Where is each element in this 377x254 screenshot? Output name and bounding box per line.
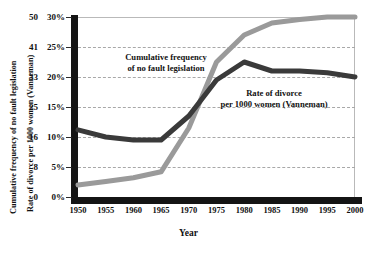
x-axis-label: 2000: [337, 206, 373, 215]
x-axis-title: Year: [0, 228, 377, 238]
cumulative-frequency-annotation: Cumulative frequency of no fault legisla…: [100, 52, 232, 74]
series-layer: [0, 0, 377, 254]
divorce-rate-annotation: Rate of divorce per 1000 women (Vanneman…: [206, 88, 342, 110]
chart-container: Cumulative frequency of no fault legisla…: [0, 0, 377, 254]
